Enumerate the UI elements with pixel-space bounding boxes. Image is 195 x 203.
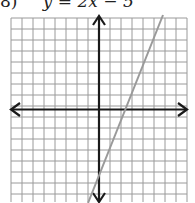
coordinate-plane [0, 0, 195, 203]
